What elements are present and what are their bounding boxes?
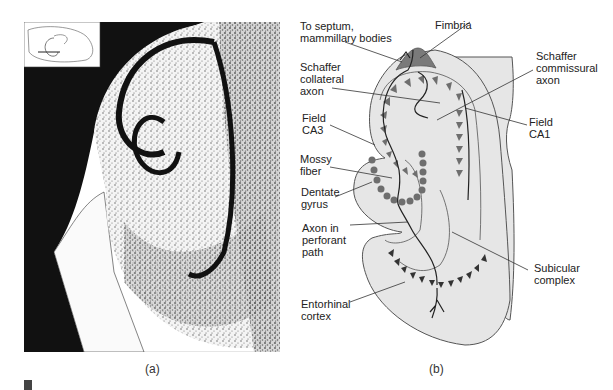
- label-dentate-gyrus: Dentate gyrus: [301, 186, 340, 210]
- label-schaffer-collateral-axon: Schaffer collateral axon: [300, 61, 344, 97]
- label-to-septum: To septum, mammillary bodies: [300, 20, 392, 44]
- label-mossy-fiber: Mossy fiber: [300, 153, 332, 177]
- label-field-ca3: Field CA3: [302, 112, 326, 136]
- label-axon-perforant-path: Axon in perforant path: [302, 222, 346, 258]
- label-fimbria: Fimbria: [435, 19, 472, 31]
- label-entorhinal-cortex: Entorhinal cortex: [301, 298, 351, 322]
- label-schaffer-commissural-axon: Schaffer commissural axon: [536, 50, 598, 86]
- label-field-ca1: Field CA1: [529, 116, 553, 140]
- panel-b-caption: (b): [429, 362, 444, 376]
- label-subicular-complex: Subicular complex: [534, 262, 580, 286]
